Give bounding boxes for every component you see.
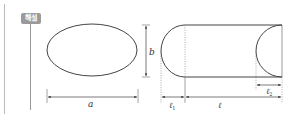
capsule-shape	[161, 25, 282, 77]
diagram-svg: b a ℓ2 ℓ1 ℓ	[0, 0, 303, 118]
dimension-l-label: ℓ	[218, 101, 222, 110]
explanation-badge: 해설	[21, 13, 41, 24]
ellipse-shape	[47, 24, 137, 76]
dimension-a-label: a	[88, 99, 93, 109]
diagram-figure: b a ℓ2 ℓ1 ℓ 해설	[0, 0, 303, 118]
dimension-b-label: b	[149, 47, 155, 57]
dimension-l2-label: ℓ2	[266, 87, 273, 97]
dimension-l1-label: ℓ1	[169, 101, 176, 111]
